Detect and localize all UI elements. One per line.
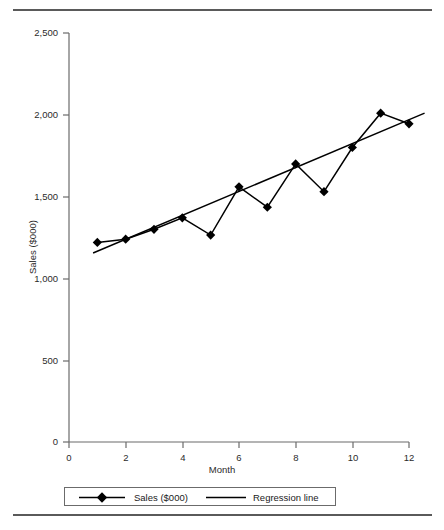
- x-tick-label-12: 12: [389, 453, 429, 463]
- y-tick-label-2500: 2,500: [0, 28, 58, 38]
- data-point-marker: [121, 235, 130, 244]
- y-tick-label-0: 0: [0, 437, 58, 447]
- x-tick-label-6: 6: [219, 453, 259, 463]
- x-tick-label-8: 8: [276, 453, 316, 463]
- x-tick-label-2: 2: [106, 453, 146, 463]
- data-point-marker: [93, 238, 102, 247]
- y-axis-title: Sales ($000): [27, 220, 38, 274]
- y-tick-label-1000: 1,000: [0, 274, 58, 284]
- x-tick-label-0: 0: [49, 453, 89, 463]
- x-axis-ticks: [69, 442, 409, 448]
- y-axis-ticks: [63, 33, 69, 442]
- x-axis-title: Month: [0, 464, 444, 475]
- data-point-marker: [206, 230, 215, 239]
- legend-diamond-icon: [97, 492, 107, 502]
- legend-label-sales: Sales ($000): [134, 493, 188, 503]
- y-tick-label-500: 500: [0, 356, 58, 366]
- x-tick-label-10: 10: [333, 453, 373, 463]
- sales-series-markers: [93, 109, 414, 247]
- bottom-horizontal-rule: [13, 514, 432, 516]
- y-tick-label-1500: 1,500: [0, 192, 58, 202]
- y-tick-label-2000: 2,000: [0, 110, 58, 120]
- chart-legend: Sales ($000) Regression line: [64, 487, 336, 506]
- legend-label-regression: Regression line: [253, 493, 318, 503]
- plot-area: [0, 0, 444, 480]
- sales-series-line: [97, 113, 409, 242]
- x-tick-label-4: 4: [163, 453, 203, 463]
- figure-container: 2,500 2,000 1,500 1,000 500 0 0 2 4 6 8 …: [0, 0, 444, 530]
- regression-line: [93, 113, 425, 253]
